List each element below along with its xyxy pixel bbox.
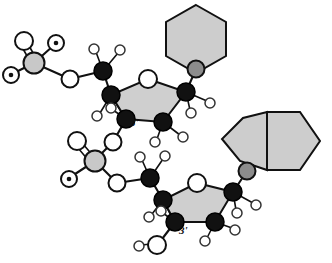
hydrogen-hydroxyl-bottom (134, 241, 144, 251)
nitrogen-base-top (188, 61, 205, 78)
label-5prime-top: 5' (101, 62, 110, 74)
hydrogen-c2prime-bottom-a (200, 236, 210, 246)
oxygen-anion-bottom-left (61, 171, 77, 187)
oxygen-ester-top (62, 71, 79, 88)
hydrogen-c2prime-top-a (150, 137, 160, 147)
oxygen-ring-bottom (188, 174, 206, 192)
base-bottom-pentagon-shape (222, 112, 267, 170)
oxygen-ester-bottom (109, 175, 126, 192)
carbon-c1prime-bottom (224, 183, 242, 201)
carbon-c2prime-bottom (206, 213, 224, 231)
oxygen-ring-top (139, 70, 157, 88)
carbon-c1prime-top (177, 83, 195, 101)
phosphorus-top (24, 53, 45, 74)
hydrogen-c1prime-top-a (186, 108, 196, 118)
structure-diagram-canvas: 5' 3' 5' 3' (0, 0, 332, 263)
molecule-svg (0, 0, 332, 263)
carbon-c4prime-top (102, 86, 120, 104)
hydrogen-c5prime-bottom-a (135, 152, 145, 162)
phosphorus-bottom (85, 151, 106, 172)
label-3prime-bottom: 3' (179, 224, 188, 236)
oxygen-anion-top-right (48, 35, 64, 51)
hydrogen-c3prime-bottom (156, 206, 166, 216)
nitrogen-base-bottom (239, 163, 256, 180)
label-5prime-bottom: 5' (148, 169, 157, 181)
hydrogen-c5prime-top-a (89, 44, 99, 54)
hydrogen-c1prime-bottom-a (232, 208, 242, 218)
base-bottom-purine (222, 112, 320, 170)
oxygen-anion-top-left (3, 67, 19, 83)
carbon-c2prime-top (154, 113, 172, 131)
hydrogen-c5prime-top-b (115, 45, 125, 55)
hydrogen-c1prime-bottom-b (251, 200, 261, 210)
atom-layer (3, 32, 261, 254)
label-3prime-top: 3' (130, 116, 139, 128)
oxygen-hydroxyl-bottom (148, 236, 166, 254)
hydrogen-c3prime-top (106, 103, 116, 113)
hydrogen-c5prime-bottom-b (160, 151, 170, 161)
hydrogen-c4prime-top (92, 111, 102, 121)
hydrogen-c1prime-top-b (205, 98, 215, 108)
hydrogen-c4prime-bottom (144, 212, 154, 222)
hydrogen-c2prime-bottom-b (230, 225, 240, 235)
oxygen-double-top-phosphate (15, 32, 33, 50)
hydrogen-c2prime-top-b (178, 132, 188, 142)
oxygen-double-bottom-phosphate (68, 132, 86, 150)
oxygen-c3prime-link-top (105, 134, 122, 151)
